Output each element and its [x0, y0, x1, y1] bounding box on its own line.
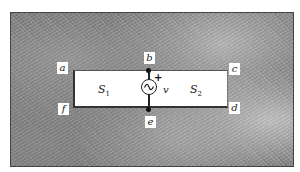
node-label-a: a — [57, 62, 68, 74]
node-label-f: f — [58, 103, 69, 115]
terminal-b-dot — [146, 68, 151, 73]
node-label-d: d — [229, 102, 240, 114]
terminal-e-dot — [146, 107, 151, 112]
region-s2: S2 — [190, 83, 202, 98]
node-label-c: c — [229, 63, 240, 75]
voltage-label: v — [163, 84, 169, 95]
region-s1: S1 — [98, 83, 110, 98]
node-label-b: b — [144, 52, 155, 64]
node-label-e: e — [145, 116, 156, 128]
polarity-plus: + — [154, 72, 162, 83]
